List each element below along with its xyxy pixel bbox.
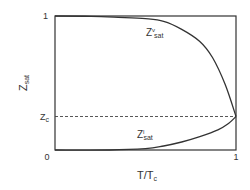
chart: 1 Zc 0 1 T/Tc Zsat Zvsat Zlsat: [0, 0, 250, 190]
x-tick-0: 0: [44, 152, 49, 162]
svg-text:Zsat: Zsat: [17, 75, 30, 91]
y-axis-label: Zsat: [17, 75, 30, 91]
vapor-curve-label: Zvsat: [146, 27, 164, 39]
x-tick-1: 1: [233, 152, 238, 162]
y-tick-1: 1: [43, 11, 48, 21]
x-axis-label: T/Tc: [137, 169, 158, 182]
liquid-curve-label: Zlsat: [137, 129, 153, 141]
y-tick-zc: Zc: [40, 112, 50, 123]
